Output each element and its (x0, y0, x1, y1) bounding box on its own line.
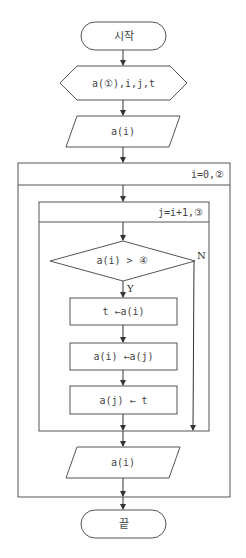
start-label: 시작 (114, 30, 134, 43)
outer-loop-label: i=0,② (191, 169, 224, 180)
declaration-label: a(①),i,j,t (92, 78, 155, 89)
output-parallelogram: a(i) (66, 447, 180, 478)
process-box-2: a(i) ←a(j) (70, 343, 177, 370)
output-label: a(i) (111, 457, 135, 468)
process-box-3: a(j) ← t (70, 386, 177, 414)
end-label: 끝 (119, 518, 129, 531)
process-2-label: a(i) ←a(j) (93, 351, 153, 362)
declaration-hexagon: a(①),i,j,t (60, 66, 187, 100)
inner-loop-label: j=i+1,③ (158, 207, 203, 218)
input-parallelogram: a(i) (66, 116, 180, 147)
input-label: a(i) (111, 126, 135, 137)
start-terminal: 시작 (81, 22, 166, 50)
yes-branch-label: Y (126, 283, 134, 294)
process-3-label: a(j) ← t (99, 395, 147, 406)
flowchart: 시작 a(①),i,j,t a(i) i=0,② j=i+1,③ a(i) > … (0, 0, 246, 558)
process-box-1: t ←a(i) (70, 298, 177, 325)
decision-label: a(i) > ④ (96, 255, 147, 266)
no-branch-label: N (197, 250, 206, 261)
process-1-label: t ←a(i) (102, 306, 144, 317)
end-terminal: 끝 (81, 510, 166, 538)
